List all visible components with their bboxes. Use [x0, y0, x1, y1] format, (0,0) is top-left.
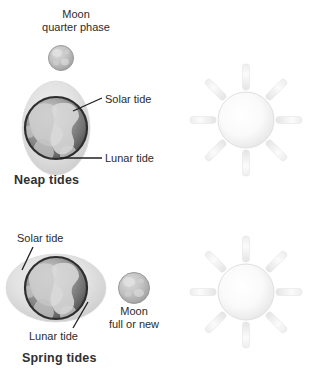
moon-quarter-phase: [49, 46, 74, 71]
moon-full-or-new-label-line2: full or new: [96, 318, 172, 331]
sun-top-disc: [218, 92, 274, 148]
solar-tide-label-neap: Solar tide: [105, 93, 151, 106]
moon-full-or-new-label-line1: Moon: [96, 305, 172, 318]
sun-top: [190, 64, 302, 176]
sun-bottom-disc: [218, 264, 274, 320]
neap-tides-caption: Neap tides: [14, 174, 79, 187]
solar-tide-label-spring: Solar tide: [17, 232, 63, 245]
spring-tides-caption: Spring tides: [22, 352, 97, 365]
lunar-tide-label-neap: Lunar tide: [105, 152, 154, 165]
moon-full-or-new-label: Moon full or new: [96, 305, 172, 331]
lunar-tide-label-spring: Lunar tide: [29, 330, 78, 343]
moon-quarter-phase-label-line2: quarter phase: [26, 21, 126, 34]
moon-quarter-phase-label: Moon quarter phase: [26, 8, 126, 34]
moon-quarter-phase-label-line1: Moon: [26, 8, 126, 21]
moon-full-or-new: [119, 273, 150, 304]
sun-bottom: [190, 236, 302, 348]
tides-diagram: Moon quarter phase Solar tide Lunar tide…: [0, 0, 328, 376]
